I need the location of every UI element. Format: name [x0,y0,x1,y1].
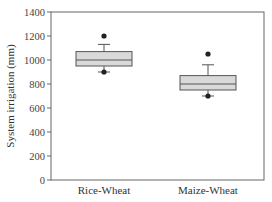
interquartile-box [180,76,236,90]
y-tick-label: 1000 [24,55,45,66]
outlier-point [101,33,106,38]
outlier-point [205,51,210,56]
interquartile-box [76,52,132,66]
y-tick-label: 600 [29,103,45,114]
x-category-label: Rice-Wheat [78,184,131,196]
plot-frame [51,12,264,180]
y-tick-label: 400 [29,127,45,138]
y-tick-label: 1400 [24,7,45,18]
plot-area-border [51,12,264,180]
y-tick-label: 1200 [24,31,45,42]
y-axis-label: System irrigation (mm) [4,44,17,148]
y-tick-label: 0 [40,175,45,186]
box-maize-wheat [180,51,236,98]
y-axis-title: System irrigation (mm) [4,44,17,148]
y-axis-ticks: 0200400600800100012001400 [24,7,51,186]
outlier-point [205,93,210,98]
boxplot-chart: System irrigation (mm) 02004006008001000… [0,0,272,202]
y-tick-label: 800 [29,79,45,90]
outlier-point [101,69,106,74]
box-rice-wheat [76,33,132,74]
x-category-label: Maize-Wheat [178,184,238,196]
y-tick-label: 200 [29,151,45,162]
box-series [76,33,236,98]
x-axis-category-labels: Rice-WheatMaize-Wheat [78,184,238,196]
